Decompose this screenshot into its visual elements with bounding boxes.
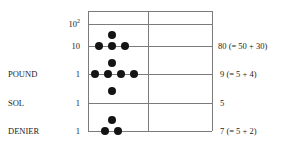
grid-line-sol [88, 103, 212, 104]
denomination-denier: DENIER [8, 127, 39, 136]
grid-line-divider [148, 11, 149, 131]
counter-pound-line-4 [130, 70, 138, 78]
counter-pound-space-1 [108, 59, 116, 67]
counting-board-diagram: 102 10 1 1 1 POUND SOL DENIER 80 (= 50 +… [0, 0, 290, 147]
place-value-hundreds: 102 [52, 20, 80, 29]
counter-pound-line-3 [117, 70, 125, 78]
grid-line-top [88, 11, 212, 12]
counter-pound-line-1 [91, 70, 99, 78]
counter-tens-space-1 [108, 31, 116, 39]
value-annotation-tens: 80 (= 50 + 30) [218, 42, 267, 51]
grid-line-right-edge [212, 11, 213, 131]
counter-tens-line-1 [95, 42, 103, 50]
value-annotation-sol: 5 [220, 99, 224, 108]
place-value-denier: 1 [52, 127, 80, 136]
denomination-pound: POUND [8, 70, 37, 79]
place-value-pound: 1 [52, 70, 80, 79]
counter-denier-line-1 [101, 127, 109, 135]
grid-line-left-edge [88, 11, 89, 131]
value-annotation-pound: 9 (= 5 + 4) [220, 70, 257, 79]
denomination-sol: SOL [8, 99, 24, 108]
grid-line-hundreds [88, 24, 212, 25]
place-value-hundreds-exponent: 2 [77, 18, 80, 24]
place-value-hundreds-base: 10 [69, 19, 78, 29]
counter-tens-line-3 [121, 42, 129, 50]
counter-pound-line-2 [104, 70, 112, 78]
value-annotation-denier: 7 (= 5 + 2) [220, 127, 257, 136]
counter-sol-space-1 [108, 87, 116, 95]
counter-tens-line-2 [108, 42, 116, 50]
grid-line-tens [88, 46, 212, 47]
place-value-tens: 10 [52, 42, 80, 51]
place-value-sol: 1 [52, 99, 80, 108]
counter-denier-line-2 [114, 127, 122, 135]
counter-denier-space-1 [108, 116, 116, 124]
